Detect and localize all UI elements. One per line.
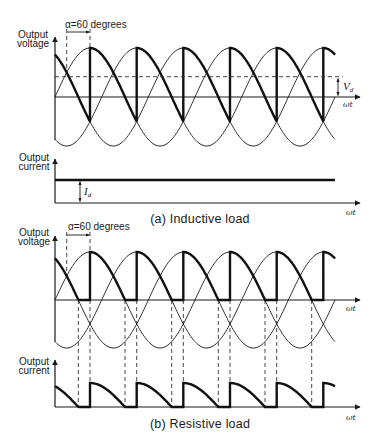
- time-axis-label: ωt: [346, 208, 357, 217]
- caption-inductive-load: (a) Inductive load: [150, 212, 250, 226]
- average-voltage-label: Vd: [343, 80, 354, 94]
- rectifier-waveform-figure: Output voltage α=60 degrees ωt Vd Output…: [0, 0, 379, 448]
- output-voltage-plot-a: Output voltage α=60 degrees ωt Vd: [17, 19, 360, 146]
- id-subscript: d: [88, 191, 92, 199]
- caption-resistive-load: (b) Resistive load: [150, 417, 250, 431]
- voltage-axis-label-line2: voltage: [17, 38, 50, 49]
- current-axis-label-line2: current: [18, 161, 49, 172]
- output-current-plot-a: Output current ωt Id: [18, 152, 360, 217]
- time-axis-label: ωt: [346, 413, 357, 422]
- output-voltage-curve: [55, 252, 335, 300]
- panel-resistive-load: Output voltage α=60 degrees ωt Output cu…: [18, 221, 360, 431]
- firing-angle-label: α=60 degrees: [68, 221, 130, 232]
- panel-inductive-load: Output voltage α=60 degrees ωt Vd Output…: [17, 19, 360, 226]
- output-current-plot-b: Output current ωt: [18, 356, 360, 422]
- output-current-curve: [55, 383, 335, 407]
- dc-current-label: Id: [83, 185, 92, 199]
- current-axis-label-line2: current: [18, 365, 49, 376]
- time-axis-label: ωt: [343, 100, 354, 109]
- output-voltage-plot-b: Output voltage α=60 degrees ωt: [18, 221, 360, 407]
- voltage-axis-label-line2: voltage: [18, 236, 51, 247]
- vd-subscript: d: [350, 86, 354, 94]
- output-voltage-curve: [55, 48, 335, 122]
- time-axis-label: ωt: [346, 304, 357, 313]
- firing-angle-label: α=60 degrees: [65, 19, 127, 30]
